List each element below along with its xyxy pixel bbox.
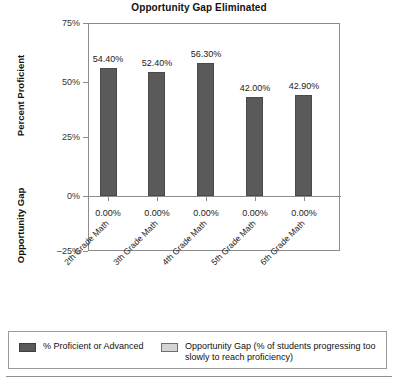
y-tick-label-75: 75% xyxy=(36,18,80,28)
bar-proficient-grade3 xyxy=(148,72,165,196)
y-tick-label-25: 25% xyxy=(36,132,80,142)
y-tick-mark-75 xyxy=(83,23,88,24)
chart-legend: % Proficient or Advanced Opportunity Gap… xyxy=(8,331,387,369)
legend-item-opportunity-gap: Opportunity Gap (% of students progressi… xyxy=(161,341,386,363)
bar-proficient-grade6 xyxy=(295,95,312,196)
y-axis-title-opportunity-gap: Opportunity Gap xyxy=(15,166,26,286)
y-tick-label-50: 50% xyxy=(36,77,80,87)
chart-title: Opportunity Gap Eliminated xyxy=(0,2,398,13)
bar-value-label-grade3: 52.40% xyxy=(128,58,186,68)
bar-value-label-grade4: 56.30% xyxy=(177,49,235,59)
y-tick-mark-25 xyxy=(83,137,88,138)
legend-label-proficient: % Proficient or Advanced xyxy=(43,341,144,352)
bar-proficient-grade4 xyxy=(197,63,214,196)
gap-value-label-grade6: 0.00% xyxy=(275,208,333,218)
x-tick-mark-grade2 xyxy=(108,196,109,201)
bar-value-label-grade6: 42.90% xyxy=(275,81,333,91)
x-tick-mark-grade3 xyxy=(157,196,158,201)
page-divider xyxy=(6,376,392,377)
x-tick-mark-grade6 xyxy=(304,196,305,201)
bar-proficient-grade2 xyxy=(100,68,117,196)
legend-swatch-proficient-icon xyxy=(19,343,36,352)
x-tick-mark-grade4 xyxy=(206,196,207,201)
chart-container: Opportunity Gap Eliminated 75% 50% 25% 0… xyxy=(0,0,398,386)
legend-label-opportunity-gap: Opportunity Gap (% of students progressi… xyxy=(185,341,386,363)
legend-swatch-opportunity-gap-icon xyxy=(161,343,178,352)
legend-item-proficient: % Proficient or Advanced xyxy=(19,341,144,352)
y-tick-mark-0 xyxy=(83,196,88,197)
y-tick-label-0: 0% xyxy=(36,191,80,201)
x-tick-mark-grade5 xyxy=(255,196,256,201)
y-tick-mark-50 xyxy=(83,82,88,83)
bar-proficient-grade5 xyxy=(246,97,263,196)
y-axis-title-percent-proficient: Percent Proficient xyxy=(15,36,26,156)
